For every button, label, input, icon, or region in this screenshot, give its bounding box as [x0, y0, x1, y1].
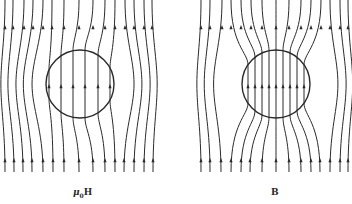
arrow-up-icon [122, 158, 125, 162]
arrow-up-icon [208, 158, 211, 162]
magnetic-field-diagram [0, 0, 352, 204]
arrow-up-icon [113, 158, 116, 162]
arrow-up-icon [151, 158, 154, 162]
arrow-up-icon [309, 25, 312, 29]
panel-B-field-lines [197, 0, 352, 172]
arrow-up-icon [229, 158, 232, 162]
field-line [152, 0, 157, 172]
field-line [348, 0, 352, 172]
label-B-text: B [271, 187, 279, 197]
field-line [85, 0, 93, 172]
arrow-up-icon [31, 25, 34, 29]
field-line [214, 0, 222, 172]
arrow-up-icon [199, 158, 202, 162]
arrow-up-icon [50, 25, 53, 29]
field-line [73, 0, 79, 172]
arrow-up-icon [274, 158, 277, 162]
arrow-up-icon [91, 25, 94, 29]
arrow-up-icon [77, 25, 80, 29]
field-line [283, 0, 289, 172]
field-line [16, 0, 24, 172]
field-line [250, 0, 262, 172]
arrow-up-icon [318, 158, 321, 162]
arrow-up-icon [142, 158, 145, 162]
arrow-up-icon [248, 158, 251, 162]
field-line [290, 0, 301, 172]
arrow-up-icon [21, 158, 24, 162]
arrow-up-icon [338, 158, 341, 162]
arrow-up-icon [12, 158, 15, 162]
arrow-up-icon [274, 25, 277, 29]
arrow-up-icon [319, 25, 322, 29]
arrow-up-icon [287, 25, 290, 29]
arrow-up-icon [219, 158, 222, 162]
field-line [144, 0, 150, 172]
field-line [262, 0, 269, 172]
arrow-up-icon [260, 25, 263, 29]
arrow-up-icon [299, 25, 302, 29]
arrow-up-icon [3, 158, 6, 162]
field-line [231, 0, 248, 172]
field-line [61, 0, 64, 172]
arrow-up-icon [229, 25, 232, 29]
arrow-up-icon [41, 25, 44, 29]
label-mu0-H: μ0H [73, 187, 92, 199]
field-line [340, 0, 346, 172]
arrow-up-icon [239, 25, 242, 29]
label-mu: μ [73, 187, 80, 197]
field-line [204, 0, 210, 172]
label-H: H [84, 187, 93, 197]
arrow-up-icon [62, 158, 65, 162]
arrow-up-icon [103, 158, 106, 162]
field-line [197, 0, 201, 172]
field-line [330, 0, 338, 172]
field-line [23, 0, 33, 172]
label-B: B [271, 187, 279, 197]
arrow-up-icon [309, 158, 312, 162]
field-line [304, 0, 321, 172]
arrow-up-icon [51, 158, 54, 162]
arrow-up-icon [328, 158, 331, 162]
arrow-up-icon [41, 158, 44, 162]
arrow-up-icon [346, 158, 349, 162]
field-line [1, 0, 5, 172]
arrow-up-icon [287, 158, 290, 162]
arrow-up-icon [249, 25, 252, 29]
arrow-up-icon [30, 158, 33, 162]
field-line [32, 0, 43, 172]
arrow-up-icon [260, 158, 263, 162]
field-line [98, 0, 105, 172]
arrow-up-icon [91, 158, 94, 162]
field-line [124, 0, 134, 172]
arrow-up-icon [132, 158, 135, 162]
panel-muH-field-lines [1, 0, 157, 172]
sphere-outline [46, 50, 114, 118]
field-line [134, 0, 142, 172]
arrow-up-icon [299, 158, 302, 162]
arrow-up-icon [103, 25, 106, 29]
arrow-up-icon [239, 158, 242, 162]
arrow-up-icon [77, 158, 80, 162]
